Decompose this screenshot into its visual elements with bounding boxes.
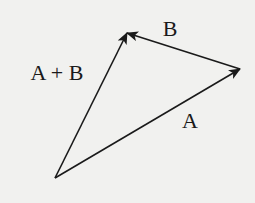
vector-b-label: B (163, 16, 178, 41)
vector-addition-diagram: A B A + B (0, 0, 255, 203)
vector-sum-label: A + B (31, 60, 84, 85)
vector-a-label: A (182, 108, 198, 133)
vector-b-arrow (127, 33, 240, 69)
